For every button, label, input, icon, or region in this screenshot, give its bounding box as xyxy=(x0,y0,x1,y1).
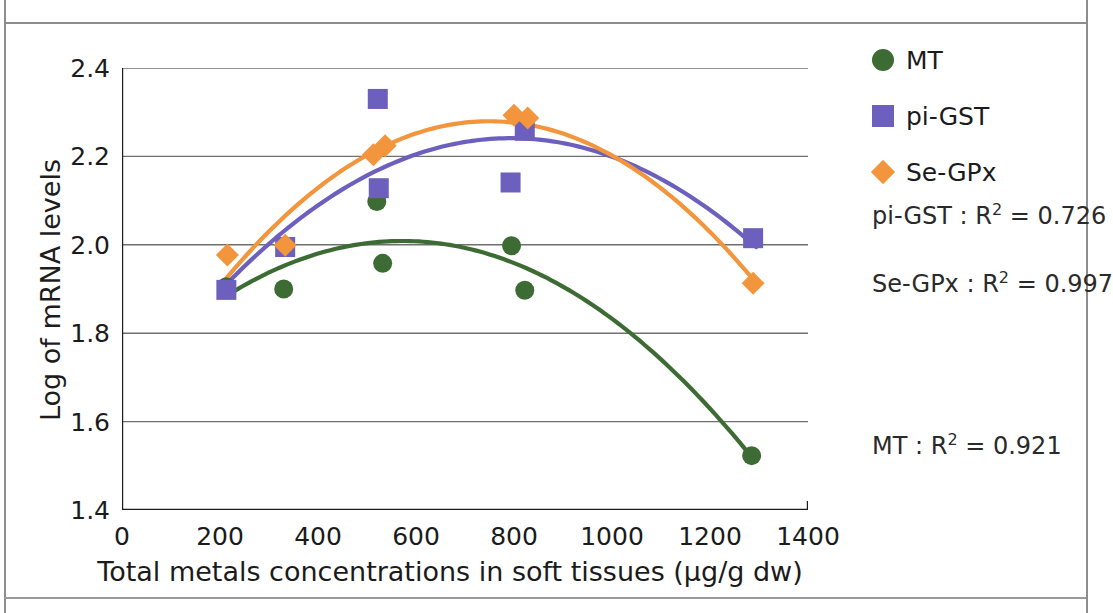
data-point-pigst xyxy=(743,228,763,248)
x-tick-label: 1400 xyxy=(776,522,840,551)
data-point-mt xyxy=(274,280,293,299)
y-tick-label: 2.2 xyxy=(54,142,110,171)
y-tick-label: 2.0 xyxy=(54,230,110,259)
trendline-pigst xyxy=(224,138,756,286)
y-axis-title-text: Log of mRNA levels xyxy=(35,159,66,421)
data-point-pigst xyxy=(369,178,389,198)
data-point-mt xyxy=(373,254,392,273)
data-point-segpx xyxy=(742,272,765,295)
y-tick-label: 1.4 xyxy=(54,496,110,525)
legend-item-mt: MT xyxy=(872,32,996,88)
r2-label-segpx-sup: 2 xyxy=(999,268,1009,287)
r2-label-pigst-tail: = 0.726 xyxy=(1002,202,1106,230)
r2-annotation-pigst: pi-GST : R2 = 0.726 xyxy=(872,200,1106,230)
legend-marker-circle-icon xyxy=(872,49,894,71)
x-tick-label: 800 xyxy=(490,522,538,551)
x-tick-label: 200 xyxy=(196,522,244,551)
data-point-mt xyxy=(502,236,521,255)
legend-label: pi-GST xyxy=(906,102,989,131)
y-tick-label: 1.6 xyxy=(54,407,110,436)
r2-label-segpx-tail: = 0.997 xyxy=(1009,270,1113,298)
r2-label-pigst-sup: 2 xyxy=(992,200,1002,219)
r2-annotation-mt: MT : R2 = 0.921 xyxy=(872,430,1062,460)
scan-border-top xyxy=(4,22,1086,24)
r2-annotation-segpx: Se-GPx : R2 = 0.997 xyxy=(872,268,1113,298)
data-point-pigst xyxy=(501,172,521,192)
r2-label-mt-sup: 2 xyxy=(947,430,957,449)
data-point-mt xyxy=(742,446,761,465)
data-point-pigst xyxy=(368,89,388,109)
r2-label-mt-main: MT : R xyxy=(872,432,947,460)
data-point-mt xyxy=(515,281,534,300)
x-tick-label: 400 xyxy=(294,522,342,551)
legend: MTpi-GSTSe-GPx xyxy=(872,32,996,200)
r2-label-mt-tail: = 0.921 xyxy=(958,432,1062,460)
r2-label-pigst-main: pi-GST : R xyxy=(872,202,992,230)
data-point-pigst xyxy=(216,280,236,300)
trendline-mt xyxy=(224,241,754,461)
x-tick-label: 1000 xyxy=(580,522,644,551)
legend-label: MT xyxy=(906,46,943,75)
plot-area xyxy=(122,68,808,510)
scan-border-bottom xyxy=(4,597,1086,599)
y-axis-title: Log of mRNA levels xyxy=(30,60,70,520)
data-point-segpx xyxy=(216,243,239,266)
y-tick-label: 1.8 xyxy=(54,319,110,348)
legend-marker-square-icon xyxy=(872,105,894,127)
legend-label: Se-GPx xyxy=(906,158,996,187)
r2-label-segpx-main: Se-GPx : R xyxy=(872,270,999,298)
scan-border-left xyxy=(4,0,6,613)
y-tick-label: 2.4 xyxy=(54,54,110,83)
legend-item-pigst: pi-GST xyxy=(872,88,996,144)
x-axis-title: Total metals concentrations in soft tiss… xyxy=(0,556,900,587)
x-tick-label: 0 xyxy=(114,522,130,551)
x-tick-label: 1200 xyxy=(678,522,742,551)
legend-marker-diamond-icon xyxy=(871,160,895,184)
plot-svg xyxy=(122,68,808,510)
scan-border-right xyxy=(1086,0,1088,613)
x-tick-label: 600 xyxy=(392,522,440,551)
legend-item-segpx: Se-GPx xyxy=(872,144,996,200)
